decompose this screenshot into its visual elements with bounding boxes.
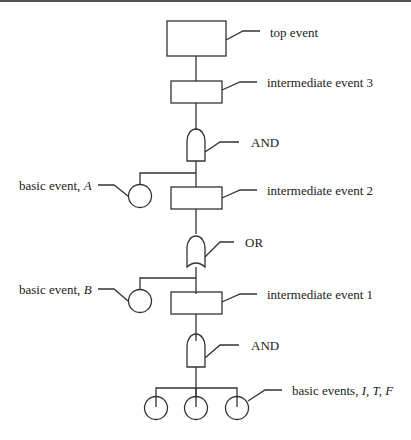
or-gate-icon bbox=[187, 236, 205, 267]
basic-event-b-label: basic event, B bbox=[19, 282, 92, 297]
intermediate-event-3-label: intermediate event 3 bbox=[267, 75, 373, 90]
connector bbox=[140, 173, 196, 184]
intermediate-event-1-leader bbox=[222, 294, 257, 302]
connector bbox=[140, 278, 196, 290]
and-gate-1-icon bbox=[187, 129, 205, 161]
intermediate-event-1-box bbox=[171, 292, 222, 314]
basic-event-a-var: A bbox=[84, 178, 92, 193]
basic-event-a-label: basic event, A bbox=[19, 178, 92, 193]
top-event-box bbox=[167, 21, 226, 56]
basic-event-b-prefix: basic event, bbox=[19, 282, 84, 297]
intermediate-event-2-leader bbox=[222, 190, 257, 198]
and-gate-1-label: AND bbox=[251, 135, 279, 150]
and-gate-2-leader bbox=[205, 345, 239, 358]
intermediate-event-3-box bbox=[171, 81, 222, 103]
fault-tree-diagram bbox=[0, 0, 411, 440]
basic-events-vars: I, T, F bbox=[362, 383, 394, 398]
basic-event-b-var: B bbox=[84, 282, 92, 297]
basic-events-leader bbox=[248, 390, 282, 401]
intermediate-event-2-box bbox=[171, 187, 222, 209]
basic-event-a-leader bbox=[98, 185, 128, 196]
intermediate-event-2-label: intermediate event 2 bbox=[267, 183, 373, 198]
basic-event-a-circle bbox=[129, 185, 152, 208]
top-event-label: top event bbox=[270, 25, 318, 40]
and-gate-2-label: AND bbox=[251, 338, 279, 353]
basic-event-b-leader bbox=[98, 289, 128, 301]
basic-events-prefix: basic events, bbox=[292, 383, 362, 398]
or-gate-label: OR bbox=[245, 235, 263, 250]
intermediate-event-1-label: intermediate event 1 bbox=[267, 287, 373, 302]
top-event-leader bbox=[226, 31, 260, 40]
intermediate-event-3-leader bbox=[222, 82, 257, 90]
basic-event-a-prefix: basic event, bbox=[19, 178, 84, 193]
or-gate-leader bbox=[205, 242, 234, 257]
and-gate-1-leader bbox=[205, 142, 239, 152]
basic-event-b-circle bbox=[129, 290, 152, 313]
basic-events-label: basic events, I, T, F bbox=[292, 383, 393, 398]
